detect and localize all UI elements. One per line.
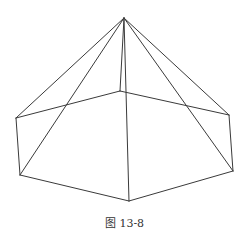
edge-left_upper-left_lower [16,118,20,175]
edge-back-left_upper [16,91,120,118]
edge-right_lower-right_upper [229,115,233,171]
pyramid-diagram [0,0,249,241]
figure-caption: 图 13-8 [0,214,249,230]
edge-front-right_lower [129,171,233,201]
edge-apex-right_upper [124,18,229,115]
edge-apex-left_upper [16,18,124,118]
edge-apex-right_lower [124,18,233,171]
edge-back-right_upper [120,91,229,115]
edge-left_lower-front [20,175,129,201]
edge-apex-left_lower [20,18,124,175]
edge-apex-front [124,18,129,201]
edge-apex-back [120,18,124,91]
